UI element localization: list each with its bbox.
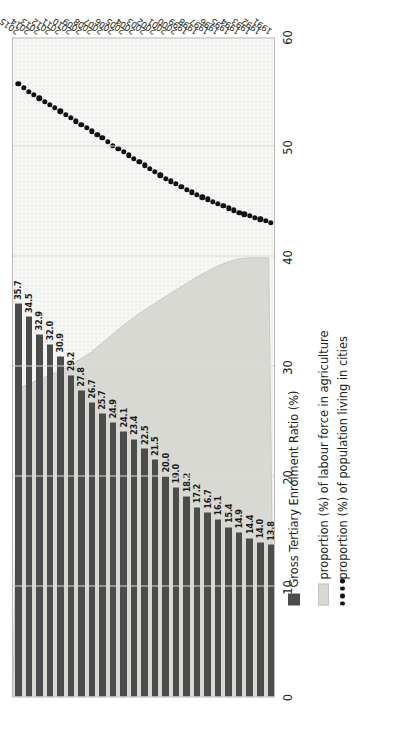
gridline <box>13 585 274 586</box>
year-axis-label: 1997 <box>187 16 210 36</box>
data-point-dot <box>263 218 268 223</box>
year-axis-label: 1995 <box>209 16 232 36</box>
gridline <box>13 255 274 256</box>
data-point-dot <box>173 181 178 186</box>
data-point-dot <box>242 211 247 216</box>
value-axis-tick: 60 <box>281 30 295 45</box>
data-point-dot <box>52 105 57 110</box>
value-axis-tick: 40 <box>281 250 295 265</box>
gridline <box>13 475 274 476</box>
data-point-dot <box>26 88 31 93</box>
data-point-dot <box>221 203 226 208</box>
data-point-dot <box>252 214 257 219</box>
data-point-dot <box>189 189 194 194</box>
year-axis-label: 1992 <box>240 16 263 36</box>
data-point-dot <box>168 178 173 183</box>
legend-label-tertiary: Gross Tertiary Enrolment Ratio (%) <box>287 390 301 587</box>
year-axis-label: 1996 <box>198 16 221 36</box>
data-point-dot <box>73 118 78 123</box>
data-point-dot <box>121 149 126 154</box>
urban-population-dotted-series <box>13 38 274 696</box>
year-axis-label: 2004 <box>114 16 137 36</box>
data-point-dot <box>94 131 99 136</box>
data-point-dot <box>179 183 184 188</box>
chart-figure: 13.814.014.414.915.416.116.717.218.219.0… <box>0 0 396 755</box>
year-axis-label: 2003 <box>124 16 147 36</box>
year-axis-label: 1998 <box>177 16 200 36</box>
chart-legend: proportion (%) of labour force in agricu… <box>316 5 354 605</box>
rotated-figure-wrapper: 13.814.014.414.915.416.116.717.218.219.0… <box>0 0 396 755</box>
data-point-dot <box>200 194 205 199</box>
data-point-dot <box>184 186 189 191</box>
value-axis-tick: 0 <box>281 693 295 700</box>
bar-swatch-icon <box>288 593 300 605</box>
year-axis-label: 2005 <box>103 16 126 36</box>
data-point-dot <box>42 98 47 103</box>
data-point-dot <box>147 165 152 170</box>
gridline <box>13 365 274 366</box>
value-axis-tick: 30 <box>281 360 295 375</box>
legend-item-cities: proportion (%) of population living in c… <box>335 5 350 605</box>
data-point-dot <box>16 81 21 86</box>
data-point-dot <box>21 84 26 89</box>
year-axis-label: 2013 <box>19 16 42 36</box>
data-point-dot <box>79 121 84 126</box>
data-point-dot <box>126 152 131 157</box>
year-axis-label: 1993 <box>230 16 253 36</box>
data-point-dot <box>163 175 168 180</box>
year-axis-label: 2008 <box>72 16 95 36</box>
data-point-dot <box>226 205 231 210</box>
data-point-dot <box>268 219 273 224</box>
legend-item-tertiary: Gross Tertiary Enrolment Ratio (%) <box>286 390 301 605</box>
data-point-dot <box>142 162 147 167</box>
year-axis-label: 2006 <box>93 16 116 36</box>
data-point-dot <box>205 196 210 201</box>
data-point-dot <box>37 95 42 100</box>
year-axis-label: 2015 <box>0 16 21 36</box>
legend-label-agriculture: proportion (%) of labour force in agricu… <box>317 330 331 579</box>
year-axis-label: 1991 <box>251 16 274 36</box>
data-point-dot <box>100 135 105 140</box>
data-point-dot <box>105 138 110 143</box>
data-point-dot <box>236 209 241 214</box>
year-axis-label: 1999 <box>166 16 189 36</box>
legend-item-agriculture: proportion (%) of labour force in agricu… <box>316 5 331 605</box>
legend-label-cities: proportion (%) of population living in c… <box>336 336 350 579</box>
data-point-dot <box>247 213 252 218</box>
data-point-dot <box>158 172 163 177</box>
data-point-dot <box>136 159 141 164</box>
year-axis-label: 1994 <box>219 16 242 36</box>
value-axis-tick: 50 <box>281 140 295 155</box>
data-point-dot <box>47 102 52 107</box>
year-axis-label: 2007 <box>82 16 105 36</box>
gridline <box>13 145 274 146</box>
data-point-dot <box>84 125 89 130</box>
data-point-dot <box>31 92 36 97</box>
data-point-dot <box>257 216 262 221</box>
year-axis-label: 2001 <box>145 16 168 36</box>
plot-area: 13.814.014.414.915.416.116.717.218.219.0… <box>12 37 275 697</box>
dots-swatch-icon <box>340 579 344 605</box>
year-axis-label: 2012 <box>30 16 53 36</box>
year-axis-label: 2014 <box>9 16 32 36</box>
year-axis-label: 2002 <box>135 16 158 36</box>
data-point-dot <box>231 207 236 212</box>
data-point-dot <box>210 198 215 203</box>
data-point-dot <box>68 115 73 120</box>
chart-legend-secondary: Gross Tertiary Enrolment Ratio (%) <box>286 390 305 605</box>
data-point-dot <box>131 155 136 160</box>
year-axis-label: 2000 <box>156 16 179 36</box>
data-point-dot <box>194 192 199 197</box>
data-point-dot <box>89 128 94 133</box>
data-point-dot <box>152 169 157 174</box>
year-axis-label: 2009 <box>61 16 84 36</box>
year-axis-label: 2011 <box>40 16 63 36</box>
data-point-dot <box>215 201 220 206</box>
year-axis-label: 2010 <box>51 16 74 36</box>
data-point-dot <box>58 108 63 113</box>
data-point-dot <box>63 111 68 116</box>
area-swatch-icon <box>318 579 329 605</box>
